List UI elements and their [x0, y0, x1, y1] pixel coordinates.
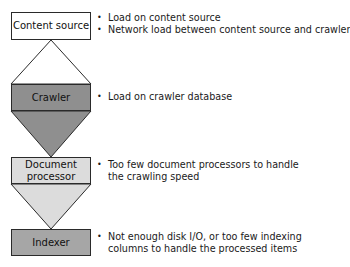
content-source-notes: Load on content source Network load betw…	[97, 12, 350, 36]
note-item: Too few document processors to handle	[97, 159, 299, 171]
note-continuation-text: the crawling speed	[108, 171, 199, 182]
document-processor-label-line2: processor	[27, 171, 76, 183]
indexer-label: Indexer	[32, 237, 70, 249]
note-item: Load on content source	[97, 12, 350, 24]
content-source-box: Content source	[11, 12, 91, 40]
document-processor-notes: Too few document processors to handle th…	[97, 159, 299, 183]
connector-triangle-up	[11, 40, 91, 84]
document-processor-box: Document processor	[11, 157, 91, 184]
note-item-continuation: columns to handle the processed items	[97, 243, 302, 255]
crawler-box: Crawler	[11, 84, 91, 111]
note-continuation-text: columns to handle the processed items	[108, 243, 297, 254]
crawler-label: Crawler	[32, 92, 70, 104]
indexer-notes: Not enough disk I/O, or too few indexing…	[97, 231, 302, 255]
indexer-box: Indexer	[11, 229, 91, 256]
content-source-label: Content source	[13, 20, 89, 32]
note-item: Not enough disk I/O, or too few indexing	[97, 231, 302, 243]
note-item: Network load between content source and …	[97, 24, 350, 36]
note-item-continuation: the crawling speed	[97, 171, 299, 183]
crawler-notes: Load on crawler database	[97, 91, 232, 103]
connector-triangle-crawler	[11, 111, 91, 157]
document-processor-label-line1: Document	[25, 159, 77, 171]
note-item: Load on crawler database	[97, 91, 232, 103]
connector-triangle-docproc	[11, 184, 91, 229]
